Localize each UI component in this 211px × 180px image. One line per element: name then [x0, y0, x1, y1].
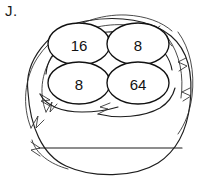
egg-value-bottom-left: 8 — [75, 76, 83, 93]
birds-nest-illustration: 16 8 8 64 — [0, 0, 211, 180]
egg-value-top-left: 16 — [71, 37, 88, 54]
nest-strand-right-tick-b — [182, 88, 191, 101]
egg-bottom-right: 64 — [107, 62, 169, 104]
egg-value-top-right: 8 — [134, 37, 142, 54]
egg-value-bottom-right: 64 — [130, 76, 147, 93]
egg-top-left: 16 — [48, 23, 110, 65]
egg-bottom-left: 8 — [48, 62, 110, 104]
egg-top-right: 8 — [107, 23, 169, 65]
nest-strand-right-tick-a — [178, 58, 187, 71]
nest-cavity-tick-right — [98, 103, 110, 114]
nest-strand-bottom-tick — [31, 142, 40, 156]
worksheet-item: J. 16 — [0, 0, 211, 180]
